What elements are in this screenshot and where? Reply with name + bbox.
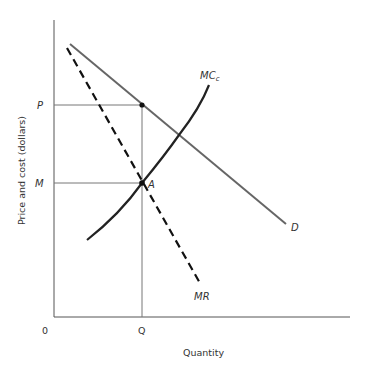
origin-label: 0: [42, 325, 48, 336]
mr-label: MR: [194, 291, 210, 302]
y-axis-title: Price and cost (dollars): [16, 116, 27, 225]
x-axis-title: Quantity: [183, 347, 224, 358]
demand-curve: [70, 44, 286, 224]
m-label: M: [35, 178, 44, 189]
marginal-revenue-curve: [67, 48, 201, 285]
monopoly-chart: P M A D MR MCc 0 Q Quantity Price and co…: [0, 0, 368, 369]
price-point: [139, 102, 144, 107]
p-label: P: [37, 100, 44, 111]
d-label: D: [291, 222, 299, 233]
point-a: [139, 180, 145, 186]
a-label: A: [147, 179, 155, 190]
mc-label: MCc: [200, 70, 220, 83]
q-label: Q: [138, 325, 145, 336]
